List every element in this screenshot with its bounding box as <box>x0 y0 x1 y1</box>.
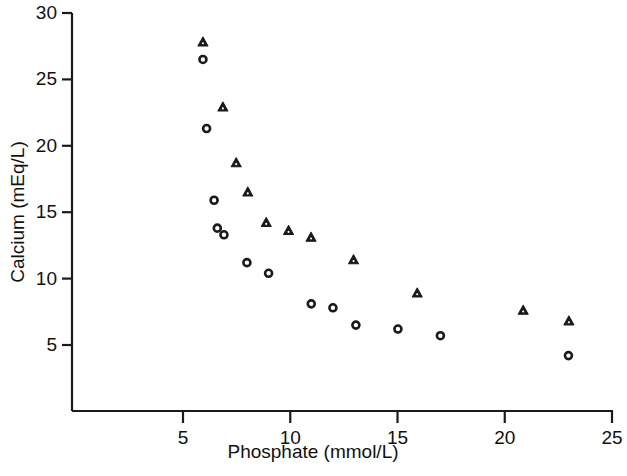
data-point-circle <box>308 300 315 307</box>
data-point-circle <box>199 56 206 63</box>
data-point-circle <box>352 322 359 329</box>
data-markers <box>198 37 574 359</box>
data-point-triangle <box>412 288 422 297</box>
data-point-circle <box>437 332 444 339</box>
data-point-triangle <box>218 102 228 111</box>
x-axis-tick-label: 20 <box>494 427 515 449</box>
data-point-triangle-core <box>287 231 289 233</box>
data-point-triangle-core <box>416 293 418 295</box>
data-point-triangle <box>231 158 241 167</box>
y-axis-tick-label: 5 <box>46 334 57 356</box>
data-point-triangle-core <box>352 260 354 262</box>
x-axis-tick-label: 5 <box>178 427 189 449</box>
y-axis-tick-label: 20 <box>36 135 57 157</box>
data-point-triangle <box>306 232 316 241</box>
x-axis-title: Phosphate (mmol/L) <box>227 441 398 463</box>
scatter-plot-figure: 51015202530 510152025 Phosphate (mmol/L)… <box>0 0 627 476</box>
data-point-circle <box>203 125 210 132</box>
data-point-circle <box>220 231 227 238</box>
data-point-circle <box>243 259 250 266</box>
data-point-triangle-core <box>235 163 237 165</box>
plot-canvas <box>0 0 627 476</box>
y-axis-tick-label: 10 <box>36 268 57 290</box>
data-point-triangle-core <box>247 192 249 194</box>
data-point-triangle <box>243 187 253 196</box>
data-point-circle <box>565 352 572 359</box>
y-axis-tick-label: 15 <box>36 201 57 223</box>
axis-lines <box>72 13 613 411</box>
data-point-triangle-core <box>310 237 312 239</box>
data-point-triangle <box>564 316 574 325</box>
data-point-circle <box>265 270 272 277</box>
data-point-triangle-core <box>222 107 224 109</box>
data-point-triangle <box>261 218 271 227</box>
data-point-triangle-core <box>522 311 524 313</box>
y-axis-tick-label: 25 <box>36 68 57 90</box>
y-axis-title: Calcium (mEq/L) <box>7 141 29 282</box>
data-point-triangle-core <box>568 321 570 323</box>
data-point-triangle-core <box>202 42 204 44</box>
data-point-triangle <box>284 226 294 235</box>
y-axis-ticks <box>62 13 72 345</box>
data-point-circle <box>211 197 218 204</box>
data-point-circle <box>214 225 221 232</box>
data-point-triangle-core <box>265 223 267 225</box>
data-point-circle <box>329 304 336 311</box>
x-axis-tick-label: 25 <box>601 427 622 449</box>
y-axis-tick-label: 30 <box>36 2 57 24</box>
x-axis-ticks <box>183 411 612 423</box>
data-point-triangle <box>198 37 208 46</box>
data-point-triangle <box>349 255 359 264</box>
data-point-circle <box>394 326 401 333</box>
data-point-triangle <box>518 305 528 314</box>
